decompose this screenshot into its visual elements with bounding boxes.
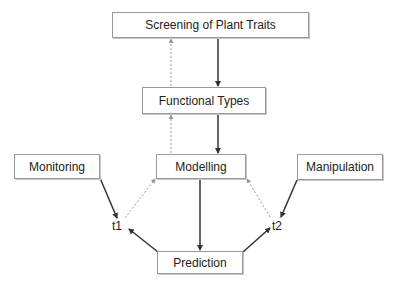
edge-prediction-to-t1 xyxy=(129,229,158,252)
node-label: Prediction xyxy=(173,256,226,270)
node-label: Manipulation xyxy=(306,160,374,174)
edge-prediction-to-t2 xyxy=(243,228,270,252)
edge-t1-to-modelling xyxy=(125,179,155,218)
node-label: Screening of Plant Traits xyxy=(145,18,276,32)
edge-monitoring-to-t1 xyxy=(100,178,117,218)
edge-manipulation-to-t2 xyxy=(281,180,297,217)
node-label: Modelling xyxy=(175,160,226,174)
plant-traits-flow-diagram: Screening of Plant Traits Functional Typ… xyxy=(0,0,398,285)
node-modelling: Modelling xyxy=(156,154,246,179)
node-label: Monitoring xyxy=(29,160,85,174)
node-t2: t2 xyxy=(272,219,282,233)
node-label: Functional Types xyxy=(159,94,250,108)
node-screening-of-plant-traits: Screening of Plant Traits xyxy=(112,12,309,38)
node-t1: t1 xyxy=(112,219,122,233)
node-functional-types: Functional Types xyxy=(142,87,266,114)
node-monitoring: Monitoring xyxy=(14,154,100,179)
node-manipulation: Manipulation xyxy=(297,154,383,180)
node-prediction: Prediction xyxy=(157,251,243,274)
edges-layer xyxy=(0,0,398,285)
edge-t2-to-modelling xyxy=(247,179,270,217)
